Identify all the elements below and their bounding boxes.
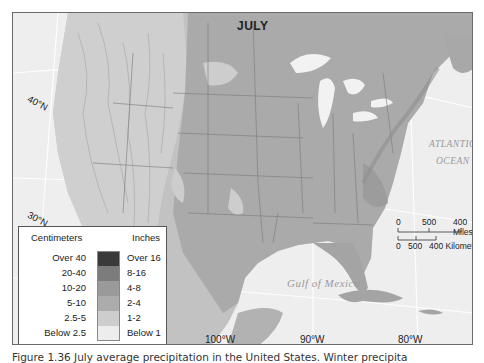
- legend-swatch-2-4: [97, 296, 120, 311]
- legend-cm: 10-20: [62, 282, 86, 293]
- legend-swatch-below-1: [97, 326, 120, 341]
- legend-swatch-over-16: [97, 251, 120, 266]
- legend-cm: 20-40: [62, 267, 86, 278]
- scale-miles-500: 500: [422, 217, 436, 227]
- legend-cm: Below 2.5: [44, 327, 86, 338]
- atlantic-label: ATLANTIC: [429, 139, 473, 149]
- scale-bar: 0 500 400 Miles 0 500 400 Kilometers: [396, 214, 473, 254]
- legend-in: Below 1: [127, 327, 161, 338]
- ocean-label: OCEAN: [436, 156, 470, 166]
- legend-cm: 5-10: [67, 297, 86, 308]
- scale-km-500: 500: [408, 241, 422, 251]
- legend-row: 10-20 4-8: [19, 281, 166, 296]
- figure-caption: Figure 1.36 July average precipitation i…: [12, 351, 407, 363]
- scale-km-label: 400 Kilometers: [429, 241, 473, 251]
- legend-in: 4-8: [127, 282, 141, 293]
- legend-swatch-8-16: [97, 266, 120, 281]
- legend-cm: 2.5-5: [64, 312, 86, 323]
- legend-swatch-1-2: [97, 311, 120, 326]
- map-title: JULY: [237, 19, 269, 33]
- legend-row: Below 2.5 Below 1: [19, 326, 166, 341]
- legend-row: 2.5-5 1-2: [19, 311, 166, 326]
- scale-km-0: 0: [396, 241, 401, 251]
- legend-row: Over 40 Over 16: [19, 251, 166, 266]
- legend-in: 1-2: [127, 312, 141, 323]
- legend-cm: Over 40: [52, 252, 86, 263]
- legend-swatch-4-8: [97, 281, 120, 296]
- legend-in: Over 16: [127, 252, 161, 263]
- legend-in: 8-16: [127, 267, 146, 278]
- legend-row: 5-10 2-4: [19, 296, 166, 311]
- longitude-label-100w: 100°W: [205, 334, 235, 345]
- scale-miles-label: 400 Miles: [453, 217, 473, 237]
- legend-header-centimeters: Centimeters: [31, 232, 82, 243]
- precipitation-map: JULY 40°N 30°N 100°W 90°W 80°W ATLANTIC …: [12, 12, 473, 345]
- legend-in: 2-4: [127, 297, 141, 308]
- legend-row: 20-40 8-16: [19, 266, 166, 281]
- gulf-of-mexico-label: Gulf of Mexico: [287, 277, 360, 289]
- scale-miles-0: 0: [396, 217, 401, 227]
- longitude-label-90w: 90°W: [300, 334, 325, 345]
- longitude-label-80w: 80°W: [398, 334, 423, 345]
- legend-header-inches: Inches: [132, 232, 160, 243]
- legend: Centimeters Inches Over 40 Over 16 20-40…: [18, 226, 167, 345]
